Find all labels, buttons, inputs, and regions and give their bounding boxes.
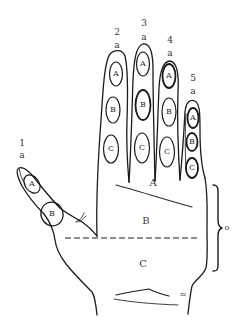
finger-3-tip-label: a <box>141 33 146 42</box>
finger-2-tip-label: a <box>114 41 119 50</box>
finger-3-segment-a-label: A <box>140 60 146 68</box>
finger-4-number: 4 <box>167 36 173 45</box>
finger-4-segment-a-label: A <box>166 72 172 80</box>
palm-crease-line <box>116 185 192 207</box>
palm-zone-c-label: C <box>139 259 147 269</box>
finger-2-segment-c-label: C <box>108 145 114 153</box>
finger-2-number: 2 <box>114 28 120 37</box>
finger-1-number: 1 <box>19 139 25 148</box>
thumb-web-crease <box>76 213 86 222</box>
wrist-crease-lower <box>114 299 178 305</box>
finger-2-segment-b-label: B <box>110 106 116 114</box>
finger-5-segment-b-label: B <box>189 138 195 146</box>
finger-4-segment-c-label: C <box>164 148 170 156</box>
palm-zone-a-label: A <box>149 178 156 188</box>
finger-5-segment-c-label: C <box>189 164 195 172</box>
finger-1-tip-label: a <box>19 151 24 160</box>
bracket-brace <box>213 185 222 271</box>
finger-3-segment-c-label: C <box>139 144 145 152</box>
finger-4-tip-label: a <box>167 49 172 58</box>
thumb-segment-b-label: B <box>49 210 55 218</box>
finger-2-segment-a-label: A <box>113 70 119 78</box>
thumb-segment-a-label: A <box>29 180 35 188</box>
wrist-mark: ≈ <box>180 291 187 299</box>
finger-4-segment-b-label: B <box>166 108 172 116</box>
finger-5-number: 5 <box>190 74 196 83</box>
hand-diagram: 1 a 2 a 3 a 4 a 5 a A B C A B C A B C A … <box>0 0 242 330</box>
finger-3-segment-b-label: B <box>140 101 146 109</box>
wrist-crease-upper <box>116 289 169 296</box>
finger-3-number: 3 <box>141 19 147 28</box>
finger-5-tip-label: a <box>190 87 195 96</box>
hand-outline-drawing <box>0 0 242 330</box>
palm-zone-b-label: B <box>142 216 149 226</box>
thumb-outline <box>17 168 97 315</box>
palm-right-edge <box>188 178 207 314</box>
finger-5-segment-a-label: A <box>190 114 196 122</box>
bracket-label: o <box>225 224 230 232</box>
